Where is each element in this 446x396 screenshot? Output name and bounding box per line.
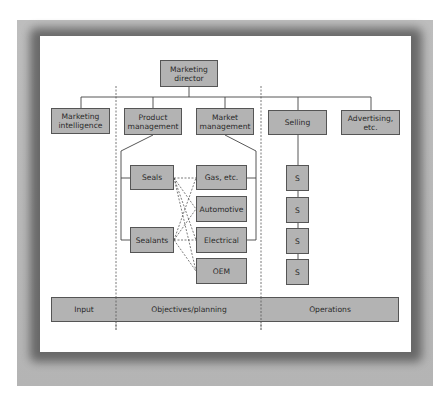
bar-label-input: Input	[52, 298, 116, 321]
bar-label-objectives: Objectives/planning	[116, 298, 262, 321]
node-salesperson-1: S	[286, 165, 309, 191]
node-gas: Gas, etc.	[196, 165, 247, 190]
node-electrical: Electrical	[196, 227, 247, 253]
node-salesperson-3: S	[286, 228, 309, 254]
node-advertising: Advertising, etc.	[341, 110, 400, 135]
node-oem: OEM	[196, 258, 247, 284]
node-product-management: Product management	[124, 108, 182, 135]
process-bar: Input Objectives/planning Operations	[51, 297, 399, 322]
node-marketing-director: Marketing director	[160, 60, 218, 87]
node-automotive: Automotive	[196, 196, 247, 222]
node-marketing-intelligence: Marketing intelligence	[51, 108, 110, 134]
node-market-management: Market management	[196, 108, 254, 135]
node-selling: Selling	[268, 110, 327, 135]
node-salesperson-4: S	[286, 259, 309, 285]
node-seals: Seals	[130, 165, 174, 190]
node-sealants: Sealants	[130, 227, 174, 253]
bar-label-operations: Operations	[262, 298, 398, 321]
node-salesperson-2: S	[286, 197, 309, 223]
